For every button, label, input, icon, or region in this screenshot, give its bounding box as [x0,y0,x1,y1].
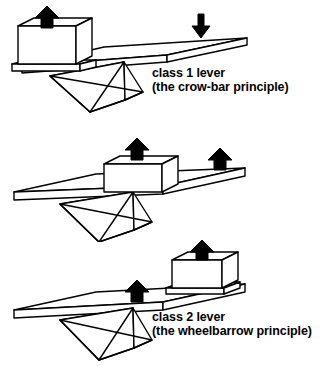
lever-diagram-class-1: class 1 lever (the crow-bar principle) [0,0,336,122]
effort-arrow-down-icon [192,14,210,38]
lever-diagram-class-3: class 3 lever (the human forearm princip… [0,240,336,366]
fulcrum [60,192,152,242]
effort-arrow-up-icon [208,148,232,170]
fulcrum [60,308,152,360]
lever-classes-diagram: class 1 lever (the crow-bar principle) [0,0,336,366]
class-3-illustration [0,240,336,366]
class-1-illustration [0,0,336,122]
caption-class-1: class 1 lever (the crow-bar principle) [152,66,289,94]
lever-diagram-class-2: class 2 lever (the wheelbarrow principle… [0,120,336,242]
caption-class-1-line-1: class 1 lever [152,66,289,80]
load-block [18,18,92,64]
caption-class-1-line-2: (the crow-bar principle) [152,80,289,94]
load-block [104,156,178,192]
class-2-illustration [0,120,336,242]
